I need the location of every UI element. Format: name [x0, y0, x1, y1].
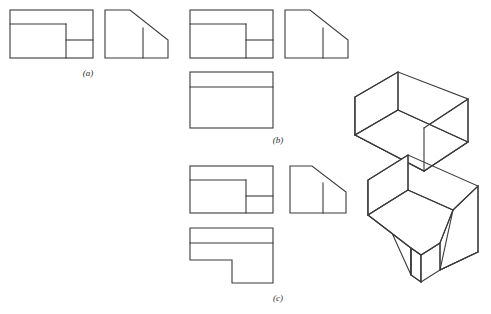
- drawing-canvas: (a): [0, 0, 491, 314]
- top-view-outline: [10, 10, 93, 58]
- engineering-drawing-figure: (a): [0, 0, 491, 314]
- caption-c: (c): [273, 293, 283, 303]
- part-b-side-view: [285, 10, 348, 58]
- part-a-group: (a): [10, 10, 168, 78]
- front-view-outline: [190, 228, 273, 283]
- part-c-group: (c): [190, 155, 478, 303]
- part-a-top-view: [10, 10, 93, 58]
- part-a-side-view: [105, 10, 168, 58]
- part-b-top-view: [190, 10, 273, 58]
- part-b-front-view: [190, 72, 273, 128]
- side-view-outline: [285, 10, 348, 58]
- part-c-isometric-view: [368, 155, 478, 282]
- part-c-side-view: [290, 166, 346, 213]
- top-view-outline: [190, 10, 273, 58]
- part-c-front-view: [190, 228, 273, 283]
- front-view-outline: [190, 72, 273, 128]
- part-c-top-view: [190, 166, 273, 213]
- caption-a: (a): [83, 68, 94, 78]
- side-view-outline: [290, 166, 346, 213]
- top-view-outline: [190, 166, 273, 213]
- side-view-outline: [105, 10, 168, 58]
- part-b-group: (b): [190, 10, 468, 171]
- caption-b: (b): [273, 135, 284, 145]
